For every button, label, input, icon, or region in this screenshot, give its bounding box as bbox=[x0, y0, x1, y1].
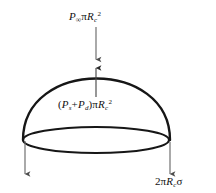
diagram-canvas bbox=[0, 0, 216, 193]
dynamic-pressure-symbol: P bbox=[78, 98, 85, 110]
static-pressure-symbol: P bbox=[62, 98, 69, 110]
force-balance-diagram: P∞πRc2 (Ps+Pd)πRc2 2πRcσ bbox=[0, 0, 216, 193]
surface-tension-label: 2πRcσ bbox=[155, 176, 183, 189]
radius-symbol-internal: R bbox=[98, 98, 105, 110]
base-ellipse bbox=[23, 127, 169, 153]
exponent-internal: 2 bbox=[108, 98, 112, 106]
sigma-symbol: σ bbox=[177, 175, 183, 187]
exponent-top: 2 bbox=[97, 10, 101, 18]
internal-pressure-label: (Ps+Pd)πRc2 bbox=[58, 99, 112, 112]
ambient-pressure-label: P∞πRc2 bbox=[69, 11, 101, 24]
ambient-pressure-symbol: P bbox=[69, 10, 76, 22]
radius-symbol-top: R bbox=[87, 10, 94, 22]
